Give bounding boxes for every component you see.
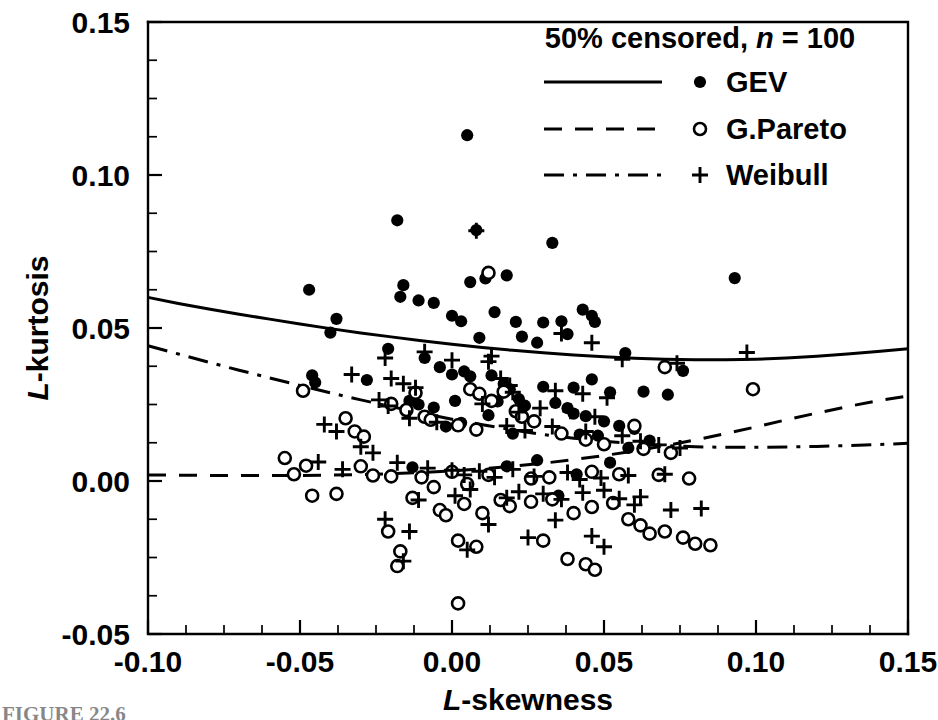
x-tick-label: -0.05 (266, 645, 334, 678)
marker-open-circle (440, 509, 452, 521)
marker-filled-circle (455, 315, 467, 327)
marker-filled-circle (446, 368, 458, 380)
marker-filled-circle (434, 361, 446, 373)
x-tick-label: -0.10 (114, 645, 182, 678)
marker-open-circle (416, 471, 428, 483)
marker-filled-circle (677, 365, 689, 377)
marker-filled-circle (622, 442, 634, 454)
marker-filled-circle (501, 269, 513, 281)
marker-plus (547, 383, 563, 399)
marker-plus (344, 367, 360, 383)
marker-open-circle (452, 535, 464, 547)
figure-caption: FIGURE 22.6 (2, 702, 126, 720)
marker-filled-circle (412, 398, 424, 410)
marker-open-circle (458, 498, 470, 510)
marker-plus (693, 501, 709, 517)
legend-label: GEV (726, 66, 788, 98)
marker-filled-circle (516, 330, 528, 342)
points-weibull (310, 223, 755, 569)
legend-item-g-pareto[interactable]: G.Pareto (544, 113, 847, 145)
marker-open-circle (644, 528, 656, 540)
marker-plus (389, 455, 405, 471)
marker-filled-circle (531, 454, 543, 466)
marker-filled-circle (412, 294, 424, 306)
legend-annotation: 50% censored, n = 100 (545, 22, 855, 54)
curve-weibull (148, 346, 908, 448)
axes-layer: -0.050.000.050.100.15-0.10-0.050.000.050… (62, 6, 938, 678)
marker-filled-circle (604, 457, 616, 469)
legend-label: Weibull (726, 159, 829, 191)
marker-open-circle (306, 490, 318, 502)
marker-plus (584, 528, 600, 544)
marker-filled-circle (589, 316, 601, 328)
marker-filled-circle (361, 374, 373, 386)
legend-item-weibull[interactable]: Weibull (544, 159, 829, 191)
marker-filled-circle (397, 279, 409, 291)
y-tick-label: 0.15 (72, 6, 130, 39)
marker-open-circle (689, 538, 701, 550)
marker-filled-circle (662, 389, 674, 401)
y-axis-title: L-kurtosis (21, 255, 54, 400)
marker-filled-circle (461, 129, 473, 141)
marker-open-circle (555, 428, 567, 440)
y-tick-label: 0.00 (72, 465, 130, 498)
marker-open-circle (452, 597, 464, 609)
marker-open-circle (683, 473, 695, 485)
marker-open-circle (330, 488, 342, 500)
marker-open-circle (355, 460, 367, 472)
y-tick-label: 0.10 (72, 159, 130, 192)
marker-open-circle (425, 414, 437, 426)
marker-open-circle (340, 412, 352, 424)
marker-open-circle (525, 496, 537, 508)
marker-plus (532, 400, 548, 416)
fitted-curves-layer (148, 297, 908, 475)
y-tick-label: 0.05 (72, 312, 130, 345)
marker-plus (444, 352, 460, 368)
marker-plus (663, 502, 679, 518)
x-tick-label: 0.10 (727, 645, 785, 678)
marker-filled-circle (488, 306, 500, 318)
marker-open-circle (562, 553, 574, 565)
marker-filled-circle (482, 409, 494, 421)
marker-open-circle (568, 507, 580, 519)
marker-open-circle (659, 525, 671, 537)
marker-open-circle (694, 123, 706, 135)
marker-open-circle (628, 420, 640, 432)
marker-open-circle (288, 468, 300, 480)
marker-filled-circle (406, 461, 418, 473)
marker-filled-circle (394, 291, 406, 303)
marker-open-circle (589, 564, 601, 576)
marker-plus (596, 482, 612, 498)
x-tick-label: 0.15 (879, 645, 937, 678)
marker-filled-circle (324, 326, 336, 338)
marker-open-circle (428, 481, 440, 493)
marker-filled-circle (531, 337, 543, 349)
marker-open-circle (297, 385, 309, 397)
marker-plus (584, 335, 600, 351)
marker-filled-circle (546, 237, 558, 249)
marker-filled-circle (694, 76, 706, 88)
marker-open-circle (586, 466, 598, 478)
marker-open-circle (406, 492, 418, 504)
marker-open-circle (279, 452, 291, 464)
marker-filled-circle (449, 395, 461, 407)
marker-filled-circle (473, 332, 485, 344)
marker-filled-circle (391, 214, 403, 226)
marker-filled-circle (464, 370, 476, 382)
marker-open-circle (598, 438, 610, 450)
marker-open-circle (704, 539, 716, 551)
marker-plus (575, 485, 591, 501)
x-tick-label: 0.05 (575, 645, 633, 678)
legend-item-gev[interactable]: GEV (544, 66, 788, 98)
y-axis-title-text: L-kurtosis (21, 255, 54, 400)
legend-label: G.Pareto (726, 113, 847, 145)
marker-filled-circle (309, 376, 321, 388)
marker-filled-circle (537, 316, 549, 328)
marker-plus (520, 530, 536, 546)
marker-open-circle (367, 469, 379, 481)
marker-plus (468, 223, 484, 239)
marker-filled-circle (464, 276, 476, 288)
x-tick-label: 0.00 (423, 645, 481, 678)
